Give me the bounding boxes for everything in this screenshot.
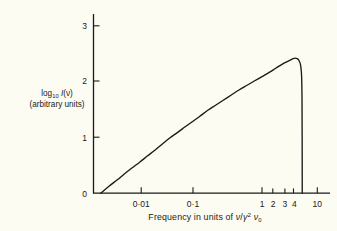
- x-tick-marks: [141, 187, 317, 193]
- y-tick-label-1: 1: [82, 133, 87, 143]
- x-tick-label-4: 4: [292, 199, 297, 209]
- y-axis-label-line1: log10 I(ν): [41, 89, 73, 99]
- x-tick-label-10: 10: [313, 199, 323, 209]
- y-tick-label-0: 0: [82, 189, 87, 199]
- x-tick-label-0p01: 0·01: [133, 199, 150, 209]
- x-tick-label-2: 2: [271, 199, 276, 209]
- x-axis-caption: Frequency in units of ν/γ2 ν0: [148, 211, 261, 223]
- x-tick-label-3: 3: [283, 199, 288, 209]
- y-tick-label-2: 2: [82, 76, 87, 86]
- figure-container: 0 1 2 3 0·01 0·1 1 2 3 4 10 log10 I(ν) (…: [0, 0, 337, 231]
- synchrotron-spectrum-chart: 0 1 2 3 0·01 0·1 1 2 3 4 10 log10 I(ν) (…: [0, 0, 337, 231]
- y-tick-label-3: 3: [82, 21, 87, 31]
- x-tick-label-0p1: 0·1: [187, 199, 200, 209]
- y-axis-label-line2: (arbitrary units): [29, 100, 84, 109]
- spectrum-curve: [101, 58, 303, 193]
- x-tick-label-1: 1: [260, 199, 265, 209]
- y-tick-marks: [94, 26, 100, 137]
